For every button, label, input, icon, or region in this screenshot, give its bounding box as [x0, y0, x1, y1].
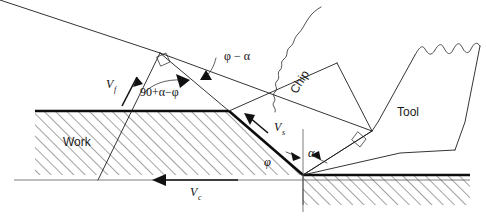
shear-angle-phi-label: φ: [264, 155, 271, 169]
chip-back-face: [229, 63, 337, 111]
vc-arrow-head: [152, 174, 166, 186]
orthogonal-cutting-diagram: Chip Tool: [0, 0, 486, 219]
velocity-triangle-right-side: [160, 53, 229, 111]
vs-arrow-head: [244, 113, 255, 125]
diagram-root: Chip Tool: [0, 0, 486, 219]
vc-label-subscript: c: [198, 193, 202, 202]
tool-top-wavy-edge: [415, 43, 480, 55]
alpha-angle-indicators: [286, 151, 327, 163]
vs-label-subscript: s: [282, 128, 285, 137]
chip-right-edge: [337, 63, 372, 131]
velocity-triangle-long-side-helper: [0, 0, 160, 53]
alpha-left-arrow-head: [291, 152, 301, 161]
machined-surface-hatching: [295, 172, 480, 212]
chip-label: Chip: [287, 67, 312, 96]
work-label: Work: [63, 135, 92, 149]
tool-right-edge: [455, 46, 480, 150]
tool-label: Tool: [397, 105, 419, 119]
ninety-plus-alpha-minus-phi-label: 90+α−φ: [140, 85, 179, 99]
vf-arrow-group: V f: [106, 77, 143, 106]
tool-group: Tool: [303, 43, 480, 175]
vf-arrow-shaft: [122, 77, 137, 106]
vf-label-subscript: f: [114, 85, 118, 94]
phi-minus-alpha-label: φ − α: [224, 49, 251, 63]
chip-free-surface-wavy: [273, 7, 321, 112]
rake-angle-alpha-label: α: [308, 146, 315, 160]
vc-arrow-group: V c: [152, 174, 238, 202]
